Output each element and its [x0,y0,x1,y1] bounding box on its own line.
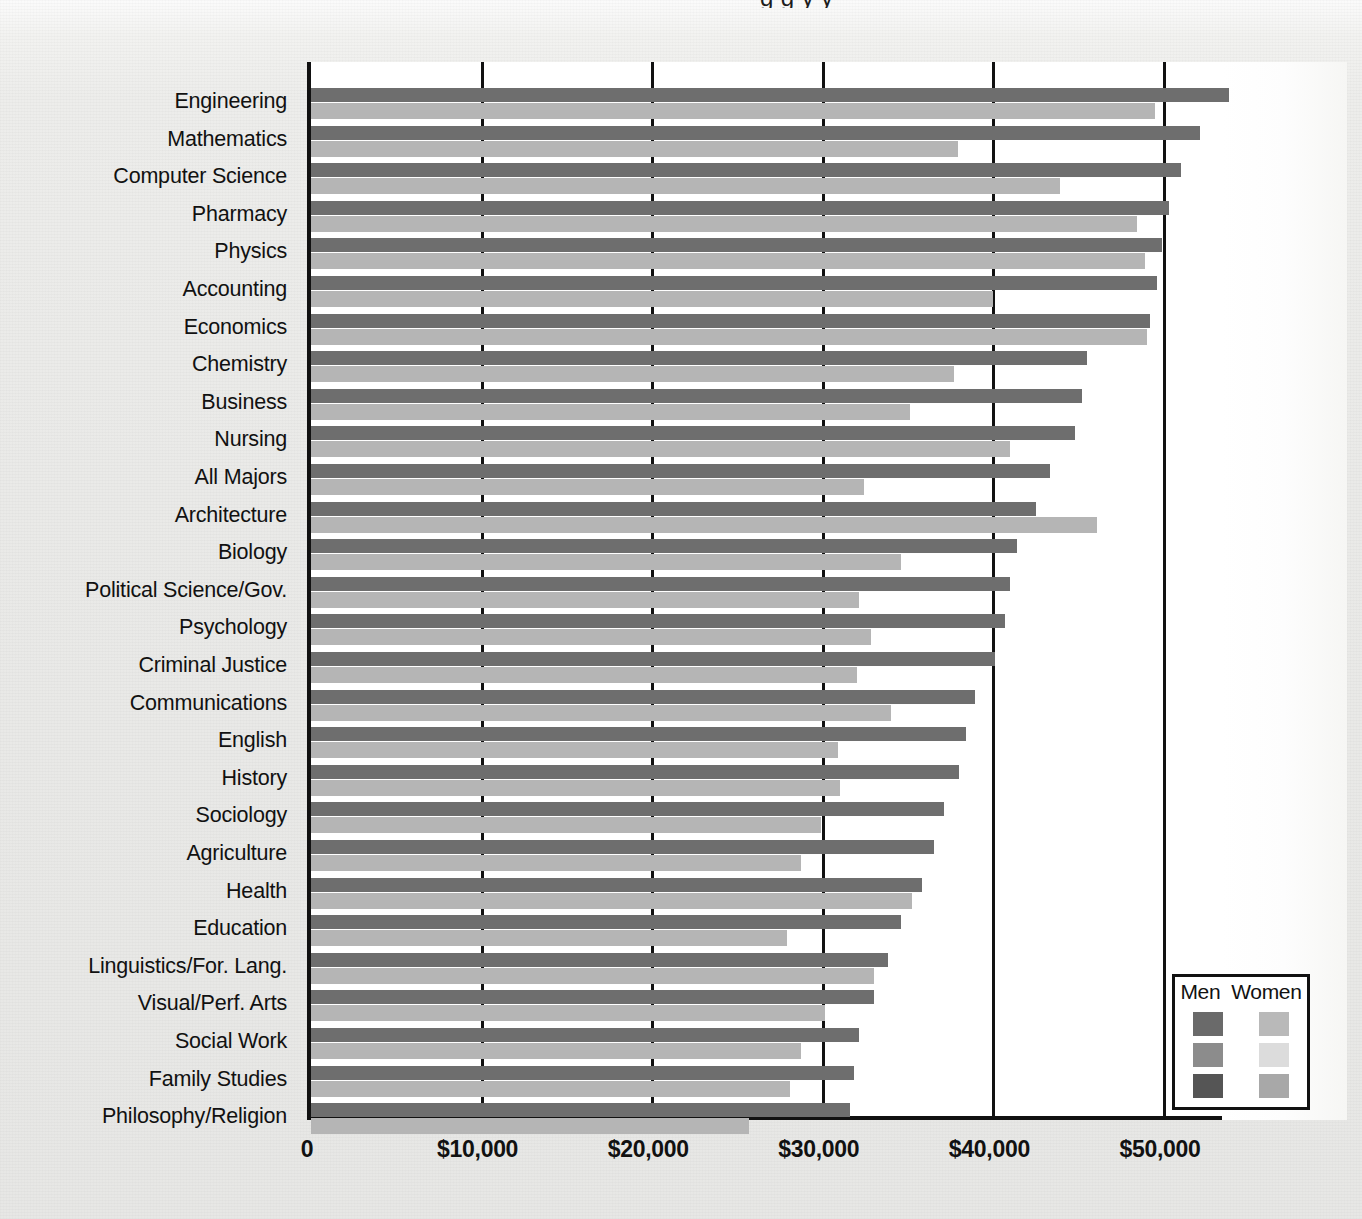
bar-men [311,464,1050,478]
bar-row [311,690,1222,722]
legend-swatch-men [1193,1074,1223,1098]
x-tick-label-40000: $40,000 [949,1136,1030,1163]
category-label: Pharmacy [192,202,287,227]
category-label: History [222,766,288,791]
bar-men [311,878,922,892]
bar-men [311,614,1005,628]
bar-women [311,404,910,420]
bar-men [311,727,966,741]
bar-row [311,238,1222,270]
bar-women [311,441,1010,457]
category-label: All Majors [195,465,287,490]
category-label: Visual/Perf. Arts [138,991,287,1016]
category-label: Linguistics/For. Lang. [88,954,287,979]
bar-women [311,592,859,608]
bar-men [311,1066,854,1080]
bar-men [311,953,888,967]
bar-women [311,667,857,683]
bar-row [311,840,1222,872]
salary-by-major-bar-chart: EngineeringMathematicsComputer SciencePh… [0,0,1362,1219]
bar-women [311,178,1060,194]
legend-header-women: Women [1231,980,1301,1004]
bar-women [311,968,874,984]
bar-women [311,291,993,307]
category-label: Health [226,879,287,904]
bar-row [311,1103,1222,1135]
bar-women [311,554,901,570]
category-label: Criminal Justice [138,653,287,678]
bar-women [311,629,871,645]
x-tick-label-20000: $20,000 [608,1136,689,1163]
bar-men [311,840,934,854]
bar-women [311,329,1147,345]
legend-swatch-women [1259,1012,1289,1036]
x-axis-tick-labels: 0$10,000$20,000$30,000$40,000$50,000 [0,1136,1362,1176]
category-label: Family Studies [149,1067,287,1092]
category-label: Economics [184,315,287,340]
category-label: Agriculture [186,841,287,866]
bar-row [311,727,1222,759]
bar-women [311,705,891,721]
bar-men [311,238,1162,252]
bar-row [311,201,1222,233]
legend-swatch-row [1175,1043,1307,1067]
bar-women [311,742,838,758]
bar-men [311,126,1200,140]
bar-row [311,351,1222,383]
bar-men [311,1028,859,1042]
bar-row [311,953,1222,985]
category-label: Nursing [214,427,287,452]
bar-men [311,652,995,666]
legend-swatch-row [1175,1074,1307,1098]
bar-row [311,389,1222,421]
x-tick-label-50000: $50,000 [1119,1136,1200,1163]
bar-women [311,216,1137,232]
category-label: Business [201,390,287,415]
bar-row [311,577,1222,609]
bar-row [311,915,1222,947]
category-label: Chemistry [192,352,287,377]
bar-women [311,855,801,871]
bar-men [311,690,975,704]
bar-women [311,1118,749,1134]
bar-row [311,502,1222,534]
x-tick-label-30000: $30,000 [778,1136,859,1163]
bar-women [311,517,1097,533]
bar-men [311,765,959,779]
category-label: Physics [214,239,287,264]
plot-panel [307,62,1222,1120]
legend-headers: Men Women [1175,980,1307,1004]
bar-row [311,276,1222,308]
category-label: Mathematics [167,127,287,152]
bar-row [311,539,1222,571]
legend-header-men: Men [1180,980,1220,1004]
bar-row [311,464,1222,496]
bar-row [311,652,1222,684]
category-label: Architecture [175,503,287,528]
bar-men [311,1103,850,1117]
bar-row [311,88,1222,120]
category-label: Sociology [196,803,287,828]
category-label: Engineering [174,89,287,114]
bar-row [311,990,1222,1022]
x-tick-label-10000: $10,000 [437,1136,518,1163]
bar-row [311,878,1222,910]
legend-swatch-men [1193,1043,1223,1067]
legend-swatch-women [1259,1074,1289,1098]
bar-row [311,614,1222,646]
x-tick-label-0: 0 [301,1136,314,1163]
bar-men [311,426,1075,440]
bar-women [311,893,912,909]
category-label: Accounting [183,277,287,302]
bar-men [311,276,1157,290]
bar-women [311,780,840,796]
bar-row [311,426,1222,458]
bar-men [311,539,1017,553]
legend-swatch-men [1193,1012,1223,1036]
bar-women [311,1005,825,1021]
bar-women [311,366,954,382]
bar-men [311,88,1229,102]
bar-women [311,141,958,157]
legend-swatch-women [1259,1043,1289,1067]
category-label: Computer Science [113,164,287,189]
